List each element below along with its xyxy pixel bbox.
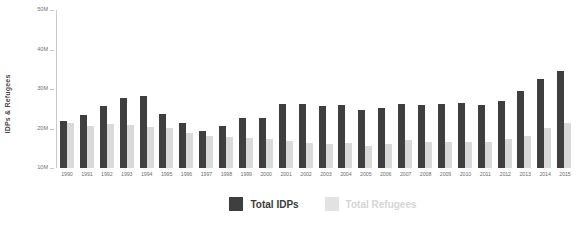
y-axis-tick-label: 40M <box>37 46 48 52</box>
bar-group[interactable] <box>97 10 117 168</box>
bar-total-refugees[interactable] <box>465 142 472 168</box>
x-axis-tick-label: 1991 <box>77 171 97 181</box>
bar-total-idps[interactable] <box>279 104 286 168</box>
bar-group[interactable] <box>534 10 554 168</box>
bar-group[interactable] <box>156 10 176 168</box>
bar-total-idps[interactable] <box>319 106 326 168</box>
bar-total-refugees[interactable] <box>67 123 74 168</box>
bar-group[interactable] <box>196 10 216 168</box>
bar-total-idps[interactable] <box>259 118 266 168</box>
bar-total-idps[interactable] <box>537 79 544 168</box>
y-axis-tick-mark <box>50 168 54 169</box>
bar-group[interactable] <box>137 10 157 168</box>
bar-total-idps[interactable] <box>100 106 107 168</box>
x-axis-tick-label: 2005 <box>356 171 376 181</box>
bar-total-idps[interactable] <box>418 105 425 168</box>
bar-total-refugees[interactable] <box>226 137 233 168</box>
bar-total-idps[interactable] <box>60 121 67 168</box>
y-axis-tick-mark <box>50 10 54 11</box>
bar-total-idps[interactable] <box>140 96 147 168</box>
bar-total-refugees[interactable] <box>266 139 273 168</box>
x-axis-tick-label: 1996 <box>177 171 197 181</box>
bar-total-idps[interactable] <box>438 104 445 168</box>
bar-total-refugees[interactable] <box>286 141 293 168</box>
legend-swatch-icon-total-refugees <box>325 197 339 211</box>
bar-total-refugees[interactable] <box>425 142 432 168</box>
bar-total-refugees[interactable] <box>345 143 352 168</box>
bar-total-idps[interactable] <box>219 126 226 168</box>
bar-total-refugees[interactable] <box>326 144 333 168</box>
bar-total-refugees[interactable] <box>365 146 372 169</box>
bar-total-idps[interactable] <box>239 118 246 168</box>
x-axis-tick-label: 2015 <box>555 171 575 181</box>
bar-total-refugees[interactable] <box>127 125 134 168</box>
bar-total-refugees[interactable] <box>186 133 193 168</box>
bar-total-refugees[interactable] <box>246 138 253 168</box>
bar-group[interactable] <box>415 10 435 168</box>
x-axis-tick-label: 2003 <box>316 171 336 181</box>
bar-group[interactable] <box>514 10 534 168</box>
bar-total-refugees[interactable] <box>445 142 452 168</box>
x-axis-tick-label: 1993 <box>117 171 137 181</box>
bar-group[interactable] <box>256 10 276 168</box>
bar-total-idps[interactable] <box>498 101 505 168</box>
bar-total-idps[interactable] <box>159 114 166 169</box>
bar-total-refugees[interactable] <box>524 136 531 168</box>
bar-group[interactable] <box>316 10 336 168</box>
bar-total-idps[interactable] <box>557 71 564 168</box>
bar-total-refugees[interactable] <box>385 144 392 168</box>
y-axis-tick-mark <box>50 129 54 130</box>
bar-group[interactable] <box>375 10 395 168</box>
bar-group[interactable] <box>296 10 316 168</box>
bar-total-idps[interactable] <box>358 110 365 168</box>
bar-total-refugees[interactable] <box>306 143 313 168</box>
bar-group[interactable] <box>335 10 355 168</box>
bar-group[interactable] <box>77 10 97 168</box>
bar-total-refugees[interactable] <box>107 124 114 168</box>
bar-total-idps[interactable] <box>517 91 524 168</box>
bar-group[interactable] <box>57 10 77 168</box>
y-axis-tick-mark <box>50 50 54 51</box>
bar-total-refugees[interactable] <box>544 128 551 168</box>
bar-group[interactable] <box>117 10 137 168</box>
legend-label-total-refugees: Total Refugees <box>346 199 417 210</box>
bar-group[interactable] <box>475 10 495 168</box>
bar-group[interactable] <box>276 10 296 168</box>
bar-total-idps[interactable] <box>199 131 206 168</box>
bar-total-refugees[interactable] <box>147 127 154 168</box>
bar-total-idps[interactable] <box>338 105 345 168</box>
bar-group[interactable] <box>435 10 455 168</box>
bar-group[interactable] <box>495 10 515 168</box>
bar-group[interactable] <box>176 10 196 168</box>
bar-total-idps[interactable] <box>398 104 405 168</box>
bar-group[interactable] <box>236 10 256 168</box>
bar-total-refugees[interactable] <box>206 136 213 168</box>
bar-total-refugees[interactable] <box>564 123 571 168</box>
bar-total-idps[interactable] <box>80 115 87 168</box>
bar-total-idps[interactable] <box>378 108 385 168</box>
bar-total-idps[interactable] <box>120 98 127 168</box>
x-axis-tick-label: 1999 <box>236 171 256 181</box>
bar-total-refugees[interactable] <box>485 142 492 168</box>
x-axis-tick-label: 1990 <box>57 171 77 181</box>
legend-item-total-refugees[interactable]: Total Refugees <box>325 197 417 211</box>
bar-group[interactable] <box>554 10 574 168</box>
bar-total-idps[interactable] <box>458 103 465 168</box>
bar-total-refugees[interactable] <box>505 139 512 168</box>
bar-total-refugees[interactable] <box>87 126 94 168</box>
bar-total-idps[interactable] <box>179 123 186 168</box>
x-axis-tick-label: 1997 <box>196 171 216 181</box>
bar-group[interactable] <box>455 10 475 168</box>
bar-group[interactable] <box>395 10 415 168</box>
x-axis-tick-label: 1994 <box>137 171 157 181</box>
legend-item-total-idps[interactable]: Total IDPs <box>229 197 298 211</box>
bar-total-idps[interactable] <box>478 105 485 168</box>
bar-total-refugees[interactable] <box>405 140 412 168</box>
x-axis-tick-label: 1998 <box>216 171 236 181</box>
x-axis-tick-label: 1992 <box>97 171 117 181</box>
bar-group[interactable] <box>216 10 236 168</box>
bar-total-idps[interactable] <box>299 104 306 168</box>
bar-total-refugees[interactable] <box>166 128 173 168</box>
bar-group[interactable] <box>355 10 375 168</box>
plot-area: 50M40M30M20M10M <box>56 10 574 168</box>
